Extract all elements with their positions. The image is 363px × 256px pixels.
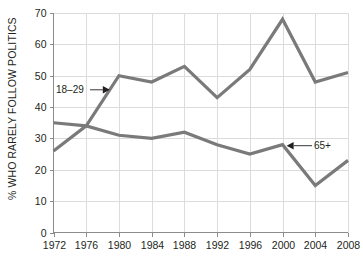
series-line-65-plus <box>54 123 349 186</box>
chart-container: 010203040506070 197219761980198419881992… <box>0 0 363 256</box>
y-tick-label-60: 60 <box>35 38 47 50</box>
annotation-65-plus-label: 65+ <box>314 140 331 151</box>
y-tick-label-30: 30 <box>35 132 47 144</box>
x-tick-label-2008: 2008 <box>337 239 361 251</box>
x-tick-label-1996: 1996 <box>239 239 263 251</box>
annotation-18-29-label: 18–29 <box>56 84 84 95</box>
x-tick-label-1988: 1988 <box>173 239 197 251</box>
x-tick-label-2004: 2004 <box>304 239 328 251</box>
x-tick-label-2000: 2000 <box>272 239 296 251</box>
y-tick-label-0: 0 <box>41 227 47 239</box>
x-tick-label-1992: 1992 <box>206 239 230 251</box>
x-tick-label-1972: 1972 <box>43 239 67 251</box>
y-tick-label-70: 70 <box>35 7 47 19</box>
annotation-65-plus: 65+ <box>287 140 332 151</box>
annotation-18-29: 18–29 <box>56 84 110 95</box>
x-tick-label-1976: 1976 <box>75 239 99 251</box>
y-axis-tick-labels: 010203040506070 <box>35 7 47 239</box>
y-tick-label-50: 50 <box>35 70 47 82</box>
y-tick-label-20: 20 <box>35 164 47 176</box>
y-axis-title: % WHO RARELY FOLLOW POLITICS <box>6 17 18 200</box>
annotation-65-plus-arrowhead <box>287 142 294 150</box>
vertical-gridlines <box>87 13 349 233</box>
y-tick-label-10: 10 <box>35 195 47 207</box>
series-line-18-29 <box>54 19 349 151</box>
x-tick-label-1984: 1984 <box>141 239 165 251</box>
line-chart: 010203040506070 197219761980198419881992… <box>0 0 363 256</box>
y-tick-label-40: 40 <box>35 101 47 113</box>
x-tick-label-1980: 1980 <box>108 239 132 251</box>
x-axis-tick-labels: 1972197619801984198819921996200020042008 <box>43 239 361 251</box>
